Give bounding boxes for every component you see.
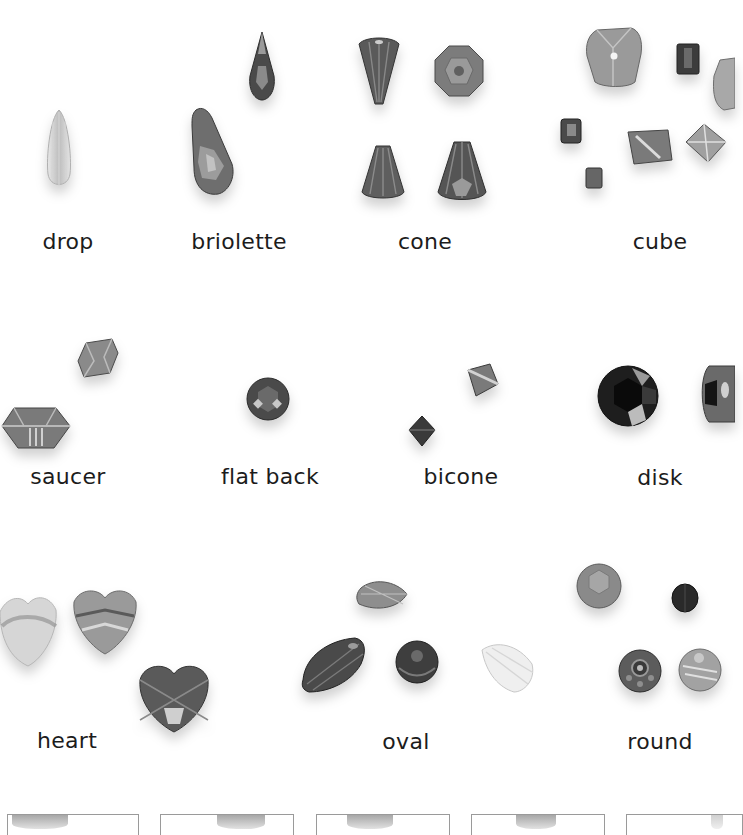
cone-bead-image-4 xyxy=(436,140,488,204)
round-bead-image-2 xyxy=(670,582,700,614)
round-label: round xyxy=(627,729,692,754)
heart-bead-image-2 xyxy=(72,586,138,658)
briolette-bead-image-small xyxy=(244,30,280,104)
heart-bead-image-3 xyxy=(138,662,210,736)
saucer-bead-image-2 xyxy=(0,404,72,452)
thumbnail-frame-3 xyxy=(316,814,450,835)
round-bead-image-4 xyxy=(677,646,723,694)
thumbnail-frame-2 xyxy=(160,814,294,835)
disk-bead-image-1 xyxy=(596,364,660,430)
round-bead-image-3 xyxy=(617,648,663,694)
heart-bead-image-1 xyxy=(0,592,58,672)
flat-back-label: flat back xyxy=(221,464,319,489)
thumbnail-frame-4 xyxy=(471,814,605,835)
oval-bead-image-1 xyxy=(355,578,409,614)
oval-bead-image-2 xyxy=(299,636,367,694)
oval-bead-image-3 xyxy=(393,638,441,686)
drop-bead-image xyxy=(44,108,74,194)
heart-label: heart xyxy=(37,728,97,753)
bicone-label: bicone xyxy=(424,464,499,489)
cube-bead-image-1 xyxy=(583,26,645,90)
cube-label: cube xyxy=(633,229,688,254)
cone-bead-image-2 xyxy=(433,44,485,98)
disk-bead-image-2 xyxy=(695,364,735,426)
drop-label: drop xyxy=(42,229,93,254)
cube-bead-image-5 xyxy=(584,166,604,190)
cone-bead-image-3 xyxy=(360,144,406,202)
cone-bead-image-1 xyxy=(355,34,403,106)
round-bead-image-1 xyxy=(575,562,623,610)
oval-bead-image-4 xyxy=(478,640,536,696)
briolette-label: briolette xyxy=(191,229,287,254)
oval-label: oval xyxy=(382,729,429,754)
disk-label: disk xyxy=(637,465,682,490)
bicone-bead-image-1 xyxy=(462,362,500,400)
cube-bead-image-4 xyxy=(558,116,584,146)
saucer-bead-image-1 xyxy=(74,337,120,379)
cube-bead-image-7 xyxy=(682,122,730,166)
briolette-bead-image-large xyxy=(188,106,240,198)
cone-label: cone xyxy=(398,229,452,254)
cube-bead-image-3 xyxy=(710,56,735,112)
cube-bead-image-2 xyxy=(675,42,701,76)
thumbnail-frame-5 xyxy=(626,814,743,835)
thumbnail-frame-1 xyxy=(7,814,139,835)
cube-bead-image-6 xyxy=(624,126,674,168)
flat-back-bead-image xyxy=(245,376,291,422)
saucer-label: saucer xyxy=(30,464,105,489)
bicone-bead-image-2 xyxy=(407,414,437,448)
